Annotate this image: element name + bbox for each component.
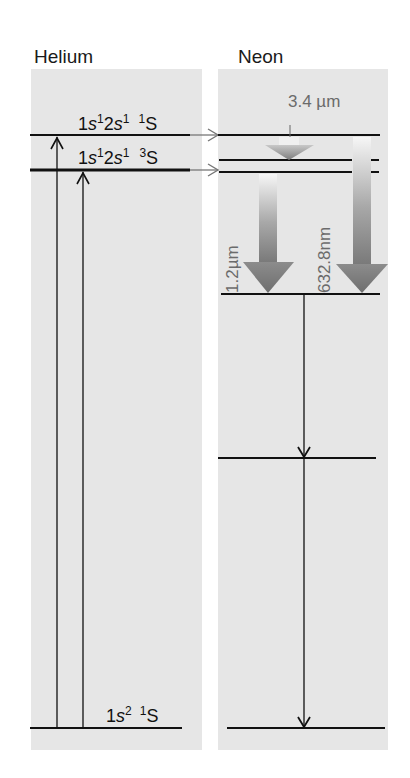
helium-ground-label: 1s21S — [106, 704, 158, 726]
wavelength-label-1.2um: 1.2µm — [223, 245, 242, 293]
wavelength-label-3.4um: 3.4 µm — [288, 92, 340, 111]
helium-excitation-arrow-1S — [51, 137, 63, 728]
helium-excitation-arrow-3S — [77, 172, 89, 728]
helium-level-1S-label: 1s12s11S — [78, 112, 157, 134]
neon-decay-arrow-1 — [298, 294, 310, 457]
neon-decay-arrow-2 — [298, 458, 310, 727]
laser-arrow-1.2um — [243, 174, 294, 293]
wavelength-label-632.8nm: 632.8nm — [315, 227, 334, 293]
helium-level-3S-label: 1s12s13S — [78, 146, 158, 168]
transfer-arrow-upper — [190, 129, 218, 141]
transfer-arrow-lower — [190, 164, 218, 176]
laser-arrow-3.4um — [265, 125, 314, 160]
energy-diagram: 1s12s11S 1s12s13S 1s21S 3.4 µm 1.2µm 632… — [0, 0, 410, 778]
